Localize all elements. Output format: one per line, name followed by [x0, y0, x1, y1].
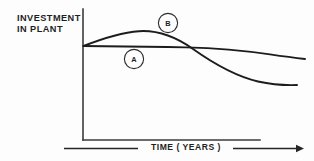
marker-a: A [124, 49, 143, 68]
curve-b [84, 31, 298, 85]
marker-a-label: A [131, 55, 137, 64]
chart-canvas: A B [0, 0, 314, 161]
marker-b-label: B [165, 19, 171, 28]
investment-in-plant-chart: INVESTMENT IN PLANT A B TIME ( YEARS ) [0, 0, 314, 161]
marker-b: B [158, 13, 177, 32]
x-axis-label: TIME ( YEARS ) [140, 142, 232, 152]
curve-a [84, 46, 306, 59]
right-arrow-icon [296, 145, 304, 152]
